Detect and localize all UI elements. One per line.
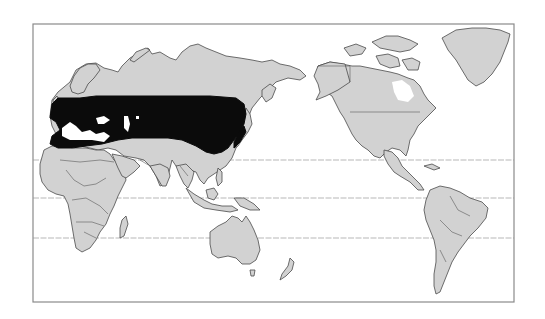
aral-sea (136, 116, 139, 119)
cuba (424, 164, 440, 170)
india (150, 164, 170, 186)
australia (210, 216, 260, 264)
madagascar (120, 216, 128, 238)
central-america (384, 150, 424, 190)
south-america (424, 186, 488, 294)
tasmania (250, 270, 255, 276)
greenland (442, 28, 510, 86)
world-map (0, 0, 545, 319)
new-zealand (280, 258, 294, 280)
new-guinea (234, 198, 260, 210)
canadian-arctic-islands (344, 36, 420, 70)
